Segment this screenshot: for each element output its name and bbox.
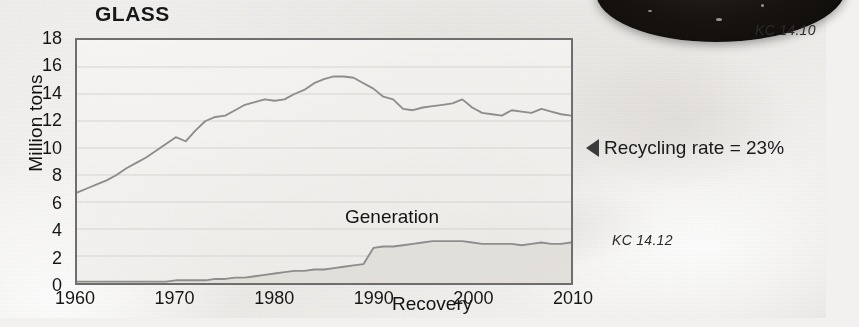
y-tick-4: 4 xyxy=(2,221,62,239)
plot-svg xyxy=(77,40,571,283)
chart-title: GLASS xyxy=(95,2,170,26)
series-label-generation: Generation xyxy=(345,206,439,228)
y-tick-18: 18 xyxy=(2,29,62,47)
gridlines xyxy=(77,67,571,256)
y-tick-2: 2 xyxy=(2,249,62,267)
x-tick-1970: 1970 xyxy=(155,289,195,307)
x-tick-1980: 1980 xyxy=(254,289,294,307)
caption-kc-top: KC 14.10 xyxy=(755,22,816,38)
y-tick-16: 16 xyxy=(2,56,62,74)
x-axis-ticks: 196019701980199020002010 xyxy=(0,289,600,315)
y-tick-8: 8 xyxy=(2,166,62,184)
recycling-rate-text: Recycling rate = 23% xyxy=(604,137,784,159)
x-tick-2000: 2000 xyxy=(453,289,493,307)
x-tick-1990: 1990 xyxy=(354,289,394,307)
y-tick-6: 6 xyxy=(2,194,62,212)
glass-chart: GLASS Million tons 024681012141618 Gener… xyxy=(0,0,600,318)
caption-kc-bottom: KC 14.12 xyxy=(612,232,673,248)
y-tick-14: 14 xyxy=(2,84,62,102)
x-tick-1960: 1960 xyxy=(55,289,95,307)
plot-area: Generation Recovery xyxy=(75,38,573,285)
x-tick-2010: 2010 xyxy=(553,289,593,307)
recovery-area-fill xyxy=(77,241,571,283)
y-axis-ticks: 024681012141618 xyxy=(0,0,70,318)
left-triangle-icon xyxy=(586,139,599,157)
y-tick-12: 12 xyxy=(2,111,62,129)
recycling-rate-annotation: Recycling rate = 23% xyxy=(586,137,784,159)
y-tick-10: 10 xyxy=(2,139,62,157)
